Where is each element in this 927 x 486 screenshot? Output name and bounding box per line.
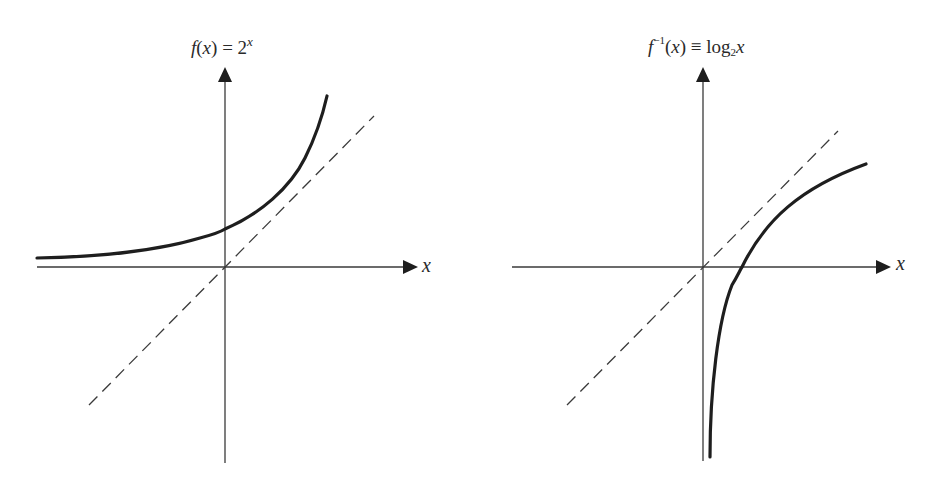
right-title-inverse: −1: [653, 34, 665, 46]
right-title-x: x: [671, 36, 679, 57]
left-title-exponent: x: [247, 34, 253, 49]
right-plot-title: f−1(x) ≡ log2x: [648, 34, 745, 58]
left-title-close: ): [211, 37, 217, 58]
left-plot: [37, 67, 418, 463]
left-title-equals: =: [222, 37, 233, 58]
right-y-arrow-icon: [696, 67, 710, 82]
left-exponential-curve: [37, 96, 327, 258]
right-log-curve: [710, 164, 866, 457]
right-plot: [512, 67, 891, 461]
right-title-equiv: ≡: [691, 36, 702, 57]
right-title-close: ): [680, 36, 686, 57]
right-x-axis-label: x: [896, 252, 905, 275]
left-x-arrow-icon: [403, 260, 418, 274]
left-plot-title: f(x) = 2x: [191, 34, 253, 59]
right-x-arrow-icon: [876, 260, 891, 274]
left-title-base: 2: [238, 37, 248, 58]
right-title-arg: x: [736, 36, 744, 57]
right-title-log: log: [706, 36, 730, 57]
left-y-arrow-icon: [218, 67, 232, 82]
left-x-axis-label: x: [422, 254, 431, 277]
graphs-canvas: [0, 0, 927, 486]
left-identity-dashed-line: [89, 116, 374, 405]
left-title-x: x: [203, 37, 211, 58]
